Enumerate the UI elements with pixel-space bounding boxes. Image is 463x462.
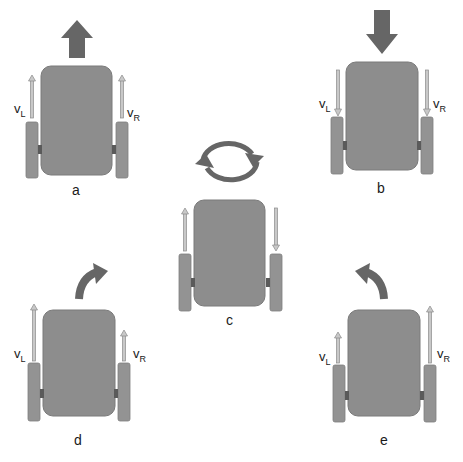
left-axle [191, 278, 195, 287]
turn-left-arrow-icon [355, 263, 384, 299]
left-axle [38, 145, 42, 154]
panel-a: vL vR a [14, 20, 141, 198]
panel-e: vL vR e [319, 263, 451, 448]
left-wheel [28, 363, 40, 421]
left-velocity-arrow-head [335, 109, 342, 116]
left-axle [343, 141, 347, 150]
panel-caption: e [380, 432, 388, 448]
left-velocity-arrow [337, 337, 340, 363]
right-velocity-label: vR [437, 346, 451, 364]
panel-caption: a [72, 182, 80, 198]
right-velocity-arrow [121, 80, 124, 118]
left-velocity-label: vL [319, 96, 331, 114]
robot-body [43, 310, 115, 416]
backward-arrow-icon [366, 10, 398, 54]
right-velocity-arrow [426, 70, 429, 110]
right-velocity-label: vR [133, 346, 147, 364]
panel-c: c [179, 144, 282, 328]
rotate-arrows-icon [195, 144, 264, 180]
robot-body [194, 200, 265, 306]
right-velocity-arrow-head [427, 306, 434, 312]
panel-caption: d [74, 432, 82, 448]
right-wheel [421, 117, 433, 174]
left-velocity-arrow [337, 70, 340, 110]
forward-arrow-icon [61, 20, 93, 58]
right-wheel [424, 365, 436, 422]
left-axle [40, 389, 44, 398]
panel-caption: c [226, 312, 233, 328]
left-velocity-arrow [33, 309, 36, 361]
right-velocity-arrow [429, 311, 432, 363]
left-wheel [26, 122, 38, 178]
left-wheel [179, 254, 191, 311]
right-wheel [270, 254, 282, 311]
right-axle [417, 141, 421, 150]
right-velocity-label: vR [433, 96, 447, 114]
right-velocity-arrow-head [424, 109, 431, 116]
right-velocity-arrow [275, 208, 278, 246]
robot-body [41, 66, 112, 175]
left-velocity-arrow [184, 213, 187, 251]
right-axle [266, 278, 270, 287]
left-wheel [333, 365, 345, 422]
left-velocity-label: vL [14, 346, 26, 364]
right-velocity-arrow-head [121, 330, 128, 336]
right-velocity-label: vR [127, 105, 141, 123]
panel-d: vL vR d [14, 263, 147, 448]
right-axle [112, 145, 116, 154]
left-velocity-arrow-head [335, 332, 342, 338]
right-velocity-arrow [123, 335, 126, 361]
left-wheel [331, 117, 343, 174]
right-axle [114, 389, 118, 398]
right-axle [420, 391, 424, 400]
left-velocity-arrow [31, 80, 34, 118]
right-velocity-arrow-head [119, 75, 126, 81]
right-wheel [116, 122, 128, 178]
panel-b: vL vR b [319, 10, 447, 196]
robot-body [348, 310, 420, 416]
panel-caption: b [377, 180, 385, 196]
left-axle [345, 391, 349, 400]
right-wheel [118, 363, 130, 421]
left-velocity-arrow-head [182, 208, 189, 214]
turn-right-arrow-icon [79, 263, 108, 299]
diagram-canvas: vL vR a vL vR b c [0, 0, 463, 462]
right-velocity-arrow-head [273, 245, 280, 251]
left-velocity-arrow-head [31, 304, 38, 310]
left-velocity-label: vL [319, 349, 331, 367]
left-velocity-arrow-head [29, 75, 36, 81]
left-velocity-label: vL [14, 101, 26, 119]
robot-body [346, 62, 418, 170]
